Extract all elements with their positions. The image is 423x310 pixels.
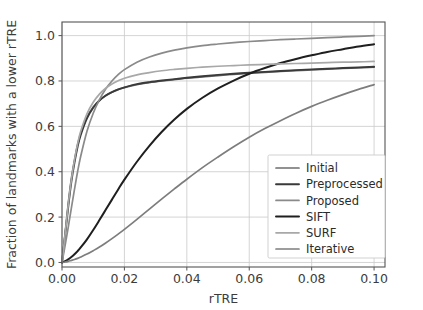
cdf-line-chart: 0.000.020.040.060.080.100.00.20.40.60.81… xyxy=(0,0,423,310)
x-tick-label: 0.02 xyxy=(110,271,138,286)
y-tick-label: 0.8 xyxy=(35,73,55,88)
legend-label-initial: Initial xyxy=(306,161,338,175)
legend-label-iterative: Iterative xyxy=(306,242,354,256)
y-tick-label: 0.0 xyxy=(35,255,55,270)
chart-legend: InitialPreprocessedProposedSIFTSURFItera… xyxy=(268,155,385,258)
y-tick-label: 1.0 xyxy=(35,28,55,43)
y-tick-label: 0.2 xyxy=(35,210,55,225)
x-axis-title: rTRE xyxy=(209,291,238,306)
x-tick-label: 0.06 xyxy=(235,271,263,286)
x-tick-label: 0.10 xyxy=(360,271,388,286)
x-tick-label: 0.04 xyxy=(173,271,201,286)
legend-label-surf: SURF xyxy=(306,226,336,240)
x-tick-label: 0.00 xyxy=(48,271,76,286)
legend-label-preprocessed: Preprocessed xyxy=(306,177,383,191)
chart-figure: 0.000.020.040.060.080.100.00.20.40.60.81… xyxy=(0,0,423,310)
legend-label-proposed: Proposed xyxy=(306,194,359,208)
legend-label-sift: SIFT xyxy=(306,210,331,224)
y-tick-label: 0.4 xyxy=(35,164,55,179)
y-tick-label: 0.6 xyxy=(35,119,55,134)
y-axis-title: Fraction of landmarks with a lower rTRE xyxy=(4,20,19,269)
x-tick-label: 0.08 xyxy=(298,271,326,286)
